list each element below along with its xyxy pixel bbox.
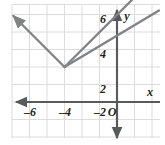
x-axis-label: x (146, 85, 153, 99)
origin-label: O (108, 105, 117, 119)
x-tick-label-neg4: –4 (58, 105, 71, 119)
y-tick-label-2: 2 (99, 82, 106, 96)
x-tick-label-neg2: –2 (93, 105, 106, 119)
y-tick-label-4: 4 (99, 47, 106, 61)
coordinate-plane-graph: 6 4 2 –6 –4 –2 O y x (0, 0, 165, 145)
x-tick-label-neg6: –6 (23, 105, 36, 119)
graph-screenshot: 6 4 2 –6 –4 –2 O y x (0, 0, 165, 145)
y-axis-label: y (122, 9, 130, 23)
y-tick-label-6: 6 (100, 12, 106, 26)
function-curve (14, 0, 160, 67)
